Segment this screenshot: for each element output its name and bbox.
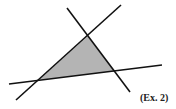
example-label: (Ex. 2) [140, 92, 168, 103]
line-b [16, 5, 121, 100]
